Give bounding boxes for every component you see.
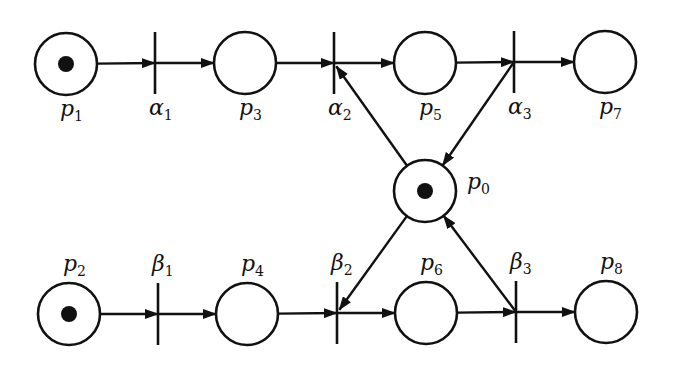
label-symbol: p <box>600 249 614 274</box>
place-p1 <box>35 33 97 95</box>
place-circle <box>394 32 456 94</box>
label-symbol: p <box>467 169 481 194</box>
label-beta3: β3 <box>509 249 532 277</box>
label-alpha3: α3 <box>508 94 532 122</box>
place-p5 <box>394 32 456 94</box>
place-p3 <box>214 32 276 94</box>
petri-net-diagram: p1p3p5p7p0p2p4p6p8α1α2α3β1β2β3 <box>0 0 674 375</box>
token-icon <box>61 306 77 322</box>
label-p2: p2 <box>63 251 86 279</box>
token-icon <box>58 56 74 72</box>
label-subscript: 1 <box>74 108 83 124</box>
label-p6: p6 <box>420 250 443 278</box>
label-symbol: α <box>328 95 343 120</box>
label-subscript: 2 <box>344 262 353 278</box>
label-subscript: 2 <box>343 107 352 123</box>
label-subscript: 0 <box>481 181 490 197</box>
label-subscript: 5 <box>433 107 442 123</box>
label-beta1: β1 <box>151 251 174 279</box>
label-symbol: p <box>239 95 253 120</box>
transitions <box>155 31 516 345</box>
arc-p1-to-alpha1 <box>97 63 155 64</box>
label-p5: p5 <box>419 95 442 123</box>
place-p8 <box>575 281 637 343</box>
label-symbol: β <box>509 249 523 274</box>
place-circle <box>216 283 278 345</box>
label-subscript: 6 <box>434 262 443 278</box>
label-p0: p0 <box>467 169 490 197</box>
label-symbol: β <box>151 251 165 276</box>
place-circle <box>395 282 457 344</box>
label-subscript: 3 <box>523 261 532 277</box>
label-symbol: p <box>599 94 613 119</box>
label-symbol: α <box>149 95 164 120</box>
label-symbol: β <box>330 250 344 275</box>
label-p8: p8 <box>600 249 623 277</box>
label-subscript: 1 <box>164 107 173 123</box>
arc-p4-to-beta2 <box>278 313 337 314</box>
place-p6 <box>395 282 457 344</box>
label-subscript: 3 <box>523 106 532 122</box>
label-symbol: p <box>60 96 74 121</box>
labels: p1p3p5p7p0p2p4p6p8α1α2α3β1β2β3 <box>60 94 623 279</box>
place-circle <box>214 32 276 94</box>
place-circle <box>575 281 637 343</box>
token-icon <box>417 183 433 199</box>
label-symbol: α <box>508 94 523 119</box>
label-alpha2: α2 <box>328 95 352 123</box>
place-circle <box>574 31 636 93</box>
label-beta2: β2 <box>330 250 353 278</box>
label-p7: p7 <box>599 94 622 122</box>
label-subscript: 7 <box>613 106 622 122</box>
place-p0 <box>394 160 456 222</box>
label-p4: p4 <box>241 251 264 279</box>
place-p7 <box>574 31 636 93</box>
place-p2 <box>38 283 100 345</box>
label-p3: p3 <box>239 95 262 123</box>
label-symbol: p <box>241 251 255 276</box>
arc-p5-to-alpha3 <box>456 62 514 63</box>
label-subscript: 8 <box>614 261 623 277</box>
arc-beta3-to-p0 <box>444 216 516 312</box>
label-p1: p1 <box>60 96 83 124</box>
label-subscript: 2 <box>77 263 86 279</box>
label-subscript: 1 <box>165 263 174 279</box>
label-symbol: p <box>420 250 434 275</box>
arc-p6-to-beta3 <box>457 312 516 313</box>
place-p4 <box>216 283 278 345</box>
label-symbol: p <box>419 95 433 120</box>
label-subscript: 4 <box>255 263 264 279</box>
label-alpha1: α1 <box>149 95 173 123</box>
label-subscript: 3 <box>253 107 262 123</box>
label-symbol: p <box>63 251 77 276</box>
